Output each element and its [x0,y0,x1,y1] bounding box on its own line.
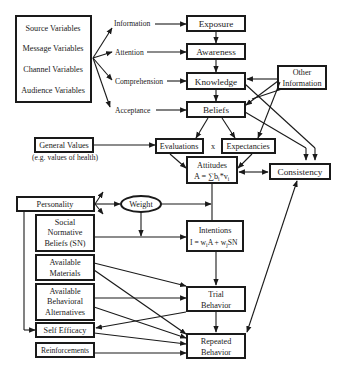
intentions-label: Intentions [199,226,232,235]
comprehension-process-label: Comprehension [115,77,163,86]
alternatives-line1: Available [49,287,81,296]
snb-line1: Social [55,218,76,227]
audience-variables-label: Audience Variables [21,86,85,95]
message-variables-label: Message Variables [22,44,83,53]
trial-line2: Behavior [201,301,231,310]
consistency-label: Consistency [278,167,323,177]
snb-line2: Normative [47,228,82,237]
alternatives-line2: Behavioral [47,297,84,306]
repeated-line1: Repeated [201,337,231,346]
reinforcements-label: Reinforcements [41,346,89,355]
attitudes-label: Attitudes [197,161,227,170]
repeated-line2: Behavior [201,348,231,357]
evaluations-label: Evaluations [160,142,199,151]
acceptance-process-label: Acceptance [115,106,151,115]
alternatives-line3: Alternatives [45,308,85,317]
information-process-label: Information [114,19,150,28]
beliefs-label: Beliefs [203,105,229,115]
channel-variables-label: Channel Variables [23,65,83,74]
intentions-formula: I = wiA + wjSN [190,238,238,248]
other-information-line2: Information [282,79,321,88]
input-variables-box: Source Variables Message Variables Chann… [16,16,91,102]
source-variables-label: Source Variables [25,24,80,33]
general-values-note: (e.g. values of health) [32,153,98,162]
other-information-line1: Other [293,68,312,77]
self-efficacy-label: Self Efficacy [44,326,88,335]
attention-process-label: Attention [115,48,144,57]
exposure-label: Exposure [199,19,234,29]
trial-line1: Trial [208,290,224,299]
snb-line3: Beliefs (SN) [44,239,85,248]
materials-line1: Available [49,258,81,267]
knowledge-label: Knowledge [195,77,237,87]
persuasion-model-diagram: Source Variables Message Variables Chann… [0,0,343,375]
weight-label: Weight [129,200,153,209]
materials-line2: Materials [50,269,81,278]
general-values-label: General Values [39,141,89,150]
expectancies-label: Expectancies [226,142,269,151]
attitudes-formula: A = ∑bi*vi [194,172,230,182]
awareness-label: Awareness [196,47,236,57]
multiply-sign: x [211,142,215,151]
personality-label: Personality [37,200,75,209]
